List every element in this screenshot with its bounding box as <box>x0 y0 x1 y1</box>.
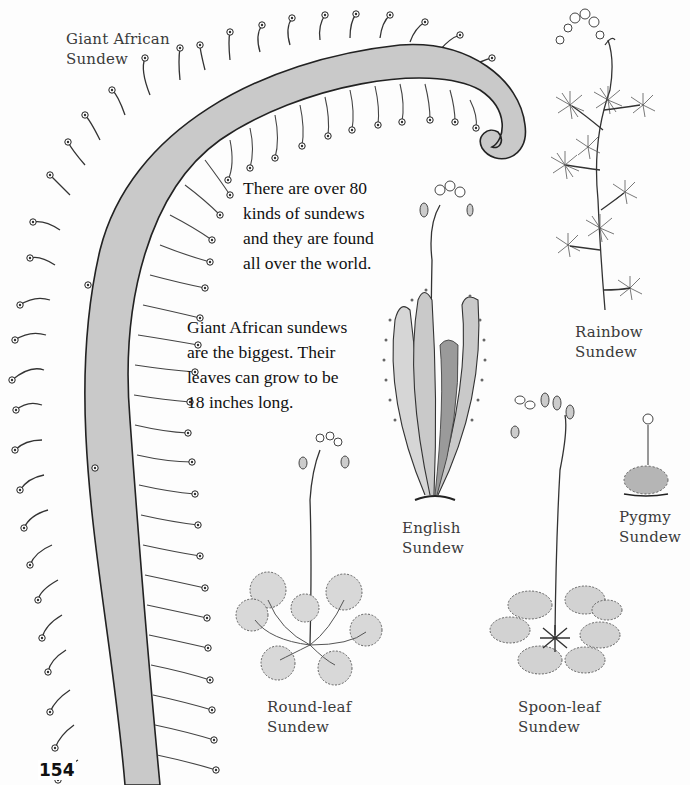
paragraph-line: There are over 80 <box>243 176 374 201</box>
paragraph-giant-fact: Giant African sundews are the biggest. T… <box>187 315 347 415</box>
paragraph-line: leaves can grow to be <box>187 365 347 390</box>
paragraph-line: are the biggest. Their <box>187 340 347 365</box>
caption-line: Spoon-leaf <box>518 697 601 717</box>
rainbow-sundew-illustration <box>551 9 655 310</box>
book-page: Giant African Sundew Rainbow Sundew Engl… <box>0 0 690 785</box>
paragraph-intro: There are over 80 kinds of sundews and t… <box>243 176 374 276</box>
english-sundew-illustration <box>383 181 487 500</box>
paragraph-line: all over the world. <box>243 251 374 276</box>
caption-line: Round-leaf <box>267 697 352 717</box>
round-leaf-sundew-illustration <box>236 432 382 685</box>
caption-line: Sundew <box>619 527 681 547</box>
caption-line: Sundew <box>518 717 601 737</box>
page-number: 154 <box>38 760 76 780</box>
caption-line: Sundew <box>267 717 352 737</box>
caption-rainbow-sundew: Rainbow Sundew <box>575 322 643 362</box>
caption-giant-african-sundew: Giant African Sundew <box>66 29 170 69</box>
caption-line: Sundew <box>66 49 170 69</box>
paragraph-line: 18 inches long. <box>187 390 347 415</box>
caption-spoon-leaf-sundew: Spoon-leaf Sundew <box>518 697 601 737</box>
paragraph-line: and they are found <box>243 226 374 251</box>
caption-line: Sundew <box>402 538 464 558</box>
caption-line: Pygmy <box>619 507 681 527</box>
caption-line: English <box>402 518 464 538</box>
spoon-leaf-sundew-illustration <box>490 393 622 674</box>
paragraph-line: Giant African sundews <box>187 315 347 340</box>
caption-pygmy-sundew: Pygmy Sundew <box>619 507 681 547</box>
caption-line: Rainbow <box>575 322 643 342</box>
pygmy-sundew-illustration <box>624 414 668 496</box>
caption-round-leaf-sundew: Round-leaf Sundew <box>267 697 352 737</box>
caption-english-sundew: English Sundew <box>402 518 464 558</box>
caption-line: Sundew <box>575 342 643 362</box>
caption-line: Giant African <box>66 29 170 49</box>
paragraph-line: kinds of sundews <box>243 201 374 226</box>
